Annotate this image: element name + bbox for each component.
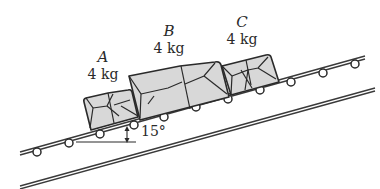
package-b-letter: B — [162, 22, 174, 40]
roller — [287, 78, 295, 86]
roller — [351, 60, 359, 68]
roller — [96, 130, 104, 138]
conveyor-diagram: A 4 kg B 4 kg C 4 kg 15° — [0, 0, 380, 189]
package-a-letter: A — [96, 48, 109, 66]
roller — [130, 121, 138, 129]
roller — [65, 139, 73, 147]
arrow-up-icon — [125, 126, 130, 131]
incline-angle-label: 15° — [141, 123, 166, 139]
package-c-mass: 4 kg — [227, 31, 258, 47]
roller — [319, 69, 327, 77]
package-b-mass: 4 kg — [154, 40, 185, 56]
package-c-letter: C — [236, 13, 248, 31]
package-c — [222, 55, 279, 95]
package-a-mass: 4 kg — [88, 66, 119, 82]
roller — [33, 148, 41, 156]
